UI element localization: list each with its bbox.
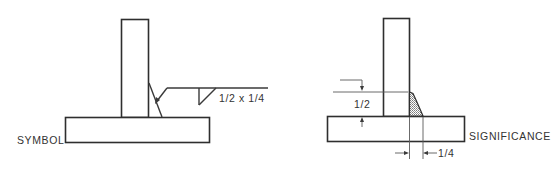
weld-size-callout: 1/2 x 1/4 (219, 92, 265, 104)
fillet-weld-outline (149, 83, 162, 117)
significance-caption: SIGNIFICANCE (469, 130, 551, 142)
symbol-caption: SYMBOL (17, 134, 64, 146)
significance-panel: 1/2 1/4 SIGNIFICANCE (328, 19, 551, 160)
vertical-plate-right (384, 19, 410, 117)
vertical-plate-left (122, 20, 149, 118)
symbol-panel: 1/2 x 1/4 SYMBOL (17, 20, 268, 147)
weld-bead-hatched (410, 92, 424, 116)
vertical-dimension-label: 1/2 (354, 98, 370, 110)
base-plate-right (328, 117, 465, 142)
horizontal-dimension-label: 1/4 (438, 147, 454, 159)
base-plate-left (66, 118, 210, 143)
fillet-weld-symbol-icon (199, 88, 216, 105)
weld-leader-arrow (155, 88, 167, 104)
weld-diagram: 1/2 x 1/4 SYMBOL 1/2 (0, 0, 559, 170)
